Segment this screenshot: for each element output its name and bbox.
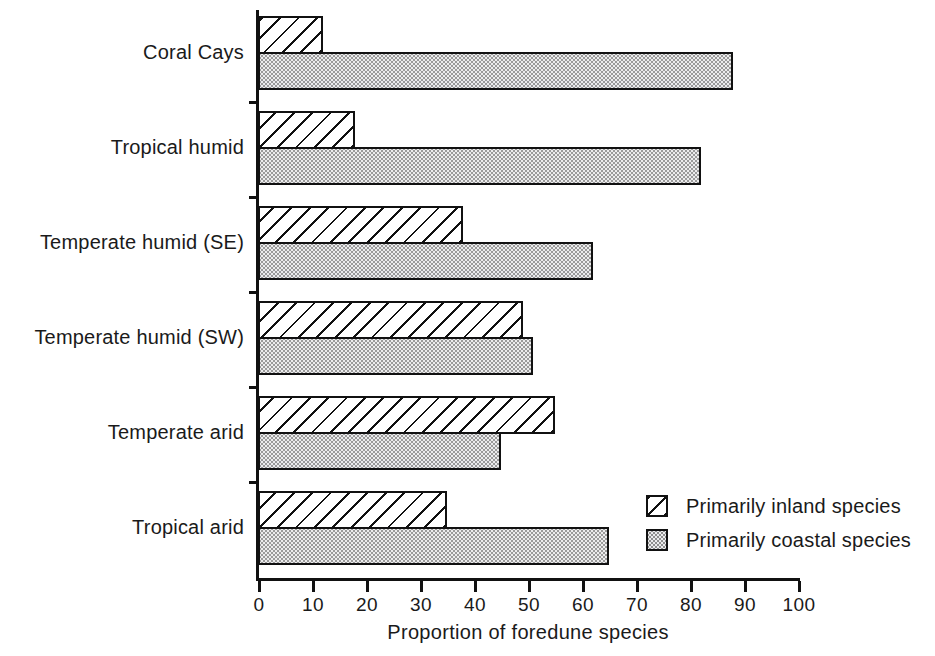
x-axis-tick — [366, 581, 369, 592]
x-axis-tick — [690, 581, 693, 592]
category-group: Coral Cays — [258, 16, 798, 92]
x-axis-tick-label: 20 — [356, 594, 378, 616]
x-axis-tick — [420, 581, 423, 592]
category-label: Coral Cays — [143, 41, 244, 64]
y-axis-tick — [249, 481, 258, 484]
bar-coastal — [258, 432, 501, 470]
category-group: Temperate arid — [258, 396, 798, 472]
y-axis-tick — [249, 386, 258, 389]
chart-legend: Primarily inland species Primarily coast… — [646, 489, 911, 557]
x-axis-tick-label: 10 — [302, 594, 324, 616]
x-axis-tick-label: 80 — [680, 594, 702, 616]
x-axis-title: Proportion of foredune species — [258, 621, 798, 644]
legend-item-inland: Primarily inland species — [646, 489, 911, 523]
x-axis-tick — [798, 581, 801, 592]
category-label: Temperate arid — [108, 421, 244, 444]
x-axis-tick — [636, 581, 639, 592]
x-axis-tick — [258, 581, 261, 592]
x-axis-tick-label: 100 — [782, 594, 815, 616]
category-group: Temperate humid (SW) — [258, 301, 798, 377]
bar-inland — [258, 301, 523, 339]
bar-coastal — [258, 337, 533, 375]
chart-page: Coral CaysTropical humidTemperate humid … — [0, 0, 935, 656]
hatched-square-icon — [646, 495, 668, 517]
bar-inland — [258, 396, 555, 434]
x-axis-tick-label: 40 — [464, 594, 486, 616]
x-axis-tick-label: 50 — [518, 594, 540, 616]
x-axis-tick-label: 0 — [253, 594, 264, 616]
y-axis-tick — [249, 101, 258, 104]
stippled-square-icon — [646, 529, 668, 551]
bar-inland — [258, 491, 447, 529]
category-label: Tropical humid — [111, 136, 244, 159]
category-label: Temperate humid (SW) — [34, 326, 244, 349]
x-axis-tick — [312, 581, 315, 592]
legend-label-coastal: Primarily coastal species — [686, 529, 911, 552]
x-axis-tick-label: 60 — [572, 594, 594, 616]
bar-inland — [258, 111, 355, 149]
y-axis-tick — [249, 291, 258, 294]
bar-inland — [258, 16, 323, 54]
y-axis-tick — [249, 196, 258, 199]
x-axis-tick — [474, 581, 477, 592]
bar-coastal — [258, 242, 593, 280]
category-group: Temperate humid (SE) — [258, 206, 798, 282]
x-axis-tick-label: 90 — [734, 594, 756, 616]
category-group: Tropical humid — [258, 111, 798, 187]
bar-coastal — [258, 52, 733, 90]
category-label: Tropical arid — [132, 516, 244, 539]
bar-coastal — [258, 147, 701, 185]
x-axis-tick — [744, 581, 747, 592]
legend-item-coastal: Primarily coastal species — [646, 523, 911, 557]
x-axis-tick — [582, 581, 585, 592]
x-axis-tick-label: 70 — [626, 594, 648, 616]
bar-inland — [258, 206, 463, 244]
x-axis-tick-label: 30 — [410, 594, 432, 616]
bar-coastal — [258, 527, 609, 565]
legend-label-inland: Primarily inland species — [686, 495, 901, 518]
category-label: Temperate humid (SE) — [40, 231, 244, 254]
x-axis-tick — [528, 581, 531, 592]
